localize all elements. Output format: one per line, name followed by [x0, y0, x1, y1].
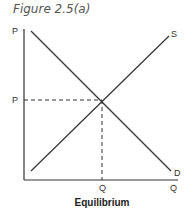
x-axis-label: Q: [170, 183, 177, 193]
equilibrium-quantity-label: Q: [99, 183, 106, 193]
equilibrium-price-label: P: [12, 95, 18, 105]
supply-label: S: [171, 29, 177, 39]
figure-caption: Equilibrium: [75, 197, 130, 208]
supply-curve: [31, 36, 169, 171]
y-axis-label: P: [12, 26, 18, 36]
supply-demand-diagram: P P S D Q Q Equilibrium: [0, 0, 194, 212]
demand-label: D: [174, 168, 181, 178]
